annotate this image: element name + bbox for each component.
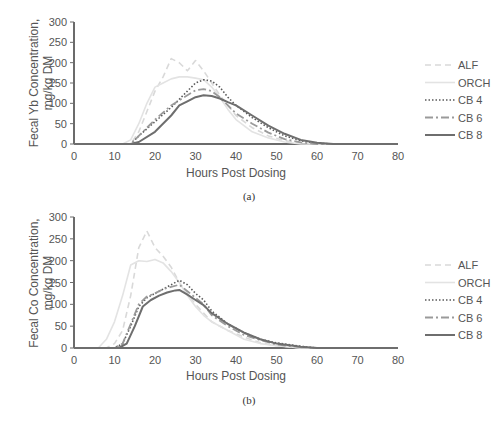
x-tick-label: 60: [311, 150, 323, 162]
x-tick-label: 0: [71, 354, 77, 366]
x-tick-label: 30: [189, 354, 201, 366]
legend-label: CB 4: [458, 94, 482, 106]
series-line-cb4: [74, 80, 398, 144]
x-tick-label: 80: [392, 150, 404, 162]
x-tick-label: 40: [230, 354, 242, 366]
chart-a-ylabel-line2: mg/kg DM: [41, 56, 55, 111]
y-tick-label: 50: [55, 320, 67, 332]
chart-a-ylabel-line1: Fecal Yb Concentration,: [27, 19, 41, 148]
series-line-cb8: [74, 290, 398, 348]
legend-label: CB 4: [458, 294, 482, 306]
legend-label: ALF: [458, 259, 478, 271]
chart-a-series: [74, 59, 398, 144]
x-tick-label: 50: [270, 354, 282, 366]
series-line-alf: [74, 59, 398, 144]
chart-b: 05010015020025030001020304050607080 ALFO…: [27, 211, 490, 407]
chart-b-ylabel-line1: Fecal Co Concentration,: [27, 218, 41, 347]
chart-a-axes: 05010015020025030001020304050607080: [49, 16, 404, 162]
series-line-orch: [74, 259, 398, 348]
x-tick-label: 20: [149, 150, 161, 162]
y-tick-label: 300: [49, 16, 67, 28]
series-line-orch: [74, 77, 398, 144]
x-tick-label: 40: [230, 150, 242, 162]
y-tick-label: 250: [49, 233, 67, 245]
y-tick-label: 0: [61, 138, 67, 150]
chart-a: 05010015020025030001020304050607080 ALFO…: [27, 16, 490, 203]
chart-b-ylabel-line2: mg/kg DM: [41, 256, 55, 311]
chart-b-caption: (b): [243, 394, 256, 407]
y-tick-label: 50: [55, 118, 67, 130]
series-line-cb4: [74, 280, 398, 348]
legend-label: ALF: [458, 59, 478, 71]
x-tick-label: 30: [189, 150, 201, 162]
chart-b-series: [74, 231, 398, 348]
x-tick-label: 0: [71, 150, 77, 162]
x-tick-label: 60: [311, 354, 323, 366]
chart-b-axes: 05010015020025030001020304050607080: [49, 211, 404, 366]
x-tick-label: 10: [108, 150, 120, 162]
x-tick-label: 70: [351, 354, 363, 366]
series-line-cb6: [74, 89, 398, 144]
y-tick-label: 300: [49, 211, 67, 223]
legend-label: CB 6: [458, 112, 482, 124]
x-tick-label: 70: [351, 150, 363, 162]
legend-label: CB 8: [458, 329, 482, 341]
x-tick-label: 50: [270, 150, 282, 162]
legend-label: CB 6: [458, 312, 482, 324]
chart-b-legend: ALFORCHCB 4CB 6CB 8: [425, 259, 490, 341]
chart-b-xlabel: Hours Post Dosing: [186, 369, 286, 383]
legend-label: ORCH: [458, 77, 490, 89]
legend-label: CB 8: [458, 129, 482, 141]
y-tick-label: 250: [49, 36, 67, 48]
legend-label: ORCH: [458, 277, 490, 289]
figure-canvas: 05010015020025030001020304050607080 ALFO…: [0, 0, 503, 422]
chart-a-legend: ALFORCHCB 4CB 6CB 8: [425, 59, 490, 141]
x-tick-label: 10: [108, 354, 120, 366]
chart-a-xlabel: Hours Post Dosing: [186, 166, 286, 180]
x-tick-label: 80: [392, 354, 404, 366]
y-tick-label: 0: [61, 342, 67, 354]
chart-a-caption: (a): [243, 190, 256, 203]
x-tick-label: 20: [149, 354, 161, 366]
